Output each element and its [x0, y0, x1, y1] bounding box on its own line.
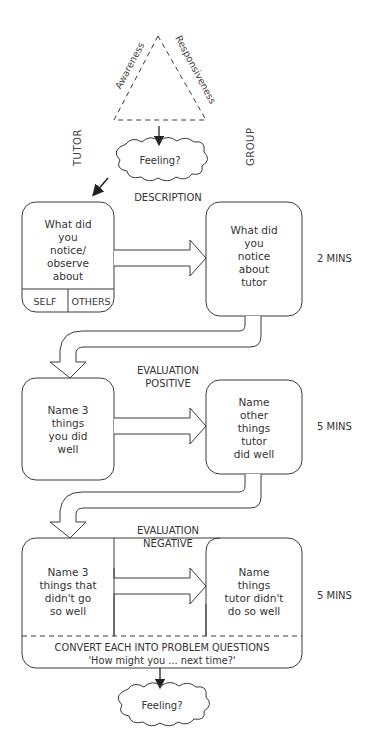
- positive-time: 5 MINS: [317, 421, 352, 432]
- negative-time: 5 MINS: [317, 590, 352, 601]
- tutor-side-label: TUTOR: [72, 129, 83, 166]
- group-side-label: GROUP: [245, 128, 256, 166]
- top-cloud-label: Feeling?: [130, 154, 190, 167]
- convert-instruction: CONVERT EACH INTO PROBLEM QUESTIONS 'How…: [22, 641, 302, 667]
- bottom-cloud-label: Feeling?: [132, 699, 192, 712]
- self-cell: SELF: [22, 295, 68, 308]
- description-block-arrow: [114, 240, 206, 276]
- others-cell: OTHERS: [68, 295, 114, 308]
- positive-tutor-text: Name 3 things you did well: [22, 404, 114, 456]
- positive-heading: EVALUATION POSITIVE: [118, 364, 218, 390]
- arrow-cloud-to-description: [96, 178, 108, 192]
- positive-group-text: Name other things tutor did well: [206, 396, 302, 461]
- positive-block-arrow: [114, 408, 206, 444]
- convert-line1: CONVERT EACH INTO PROBLEM QUESTIONS: [22, 641, 302, 654]
- description-time: 2 MINS: [317, 253, 352, 264]
- description-heading: DESCRIPTION: [118, 191, 218, 204]
- negative-group-text: Name things tutor didn't do so well: [206, 566, 302, 618]
- negative-heading: EVALUATION NEGATIVE: [118, 524, 218, 550]
- negative-block-arrow: [114, 568, 206, 636]
- negative-tutor-text: Name 3 things that didn't go so well: [22, 566, 114, 618]
- convert-line2: 'How might you ... next time?': [22, 654, 302, 667]
- description-tutor-text: What did you notice/ observe about: [22, 218, 114, 283]
- description-group-text: What did you notice about tutor: [206, 224, 302, 289]
